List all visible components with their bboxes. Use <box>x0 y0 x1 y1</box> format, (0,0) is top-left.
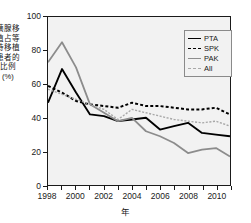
x-tick <box>203 186 204 190</box>
x-tick-label: 2006 <box>151 192 170 201</box>
x-tick-label: 2008 <box>179 192 198 201</box>
x-tick <box>104 186 105 190</box>
x-tick-label: 1998 <box>38 192 57 201</box>
x-tick-label: 2010 <box>207 192 226 201</box>
legend-label: SPK <box>204 45 219 53</box>
x-tick <box>75 186 76 190</box>
x-tick-label: 2000 <box>66 192 85 201</box>
x-tick <box>160 186 161 190</box>
chart-figure: 胰腺移植占等待移植患者的 比例 (%) 020406080100 1998200… <box>0 0 251 223</box>
x-tick <box>132 186 133 190</box>
legend-swatch-all-icon <box>188 65 201 73</box>
series-line-all <box>48 89 230 126</box>
x-tick <box>47 186 48 190</box>
x-tick <box>231 186 232 190</box>
x-tick-label: 2004 <box>122 192 141 201</box>
x-tick <box>61 186 62 190</box>
legend-label: PTA <box>204 35 218 43</box>
x-tick <box>89 186 90 190</box>
x-tick-label: 2002 <box>94 192 113 201</box>
y-tick-label: 60 <box>17 80 41 89</box>
legend-item-spk[interactable]: SPK <box>188 44 228 53</box>
chart-legend: PTASPKPAKAll <box>184 30 232 77</box>
legend-label: All <box>204 65 212 73</box>
y-tick-label: 20 <box>17 148 41 157</box>
x-tick <box>189 186 190 190</box>
x-axis-title: 年 <box>0 205 251 217</box>
legend-swatch-pta-icon <box>188 35 201 43</box>
y-tick-label: 100 <box>17 12 41 21</box>
y-tick-label: 0 <box>17 182 41 191</box>
x-tick <box>118 186 119 190</box>
legend-swatch-pak-icon <box>188 55 201 63</box>
x-tick <box>146 186 147 190</box>
legend-item-pta[interactable]: PTA <box>188 34 228 43</box>
series-line-pta <box>48 69 230 136</box>
x-tick <box>174 186 175 190</box>
legend-item-all[interactable]: All <box>188 64 228 73</box>
y-tick-label: 80 <box>17 46 41 55</box>
legend-label: PAK <box>204 55 218 63</box>
legend-swatch-spk-icon <box>188 45 201 53</box>
y-tick-label: 40 <box>17 114 41 123</box>
x-tick <box>217 186 218 190</box>
legend-item-pak[interactable]: PAK <box>188 54 228 63</box>
